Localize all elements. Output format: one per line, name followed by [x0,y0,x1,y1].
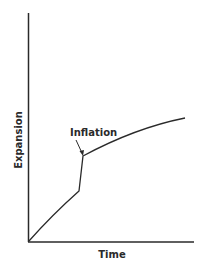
expansion-chart: Inflation Time Expansion [0,0,202,268]
x-axis-label: Time [98,249,126,260]
y-axis-label: Expansion [13,111,24,169]
inflation-label: Inflation [70,127,117,138]
